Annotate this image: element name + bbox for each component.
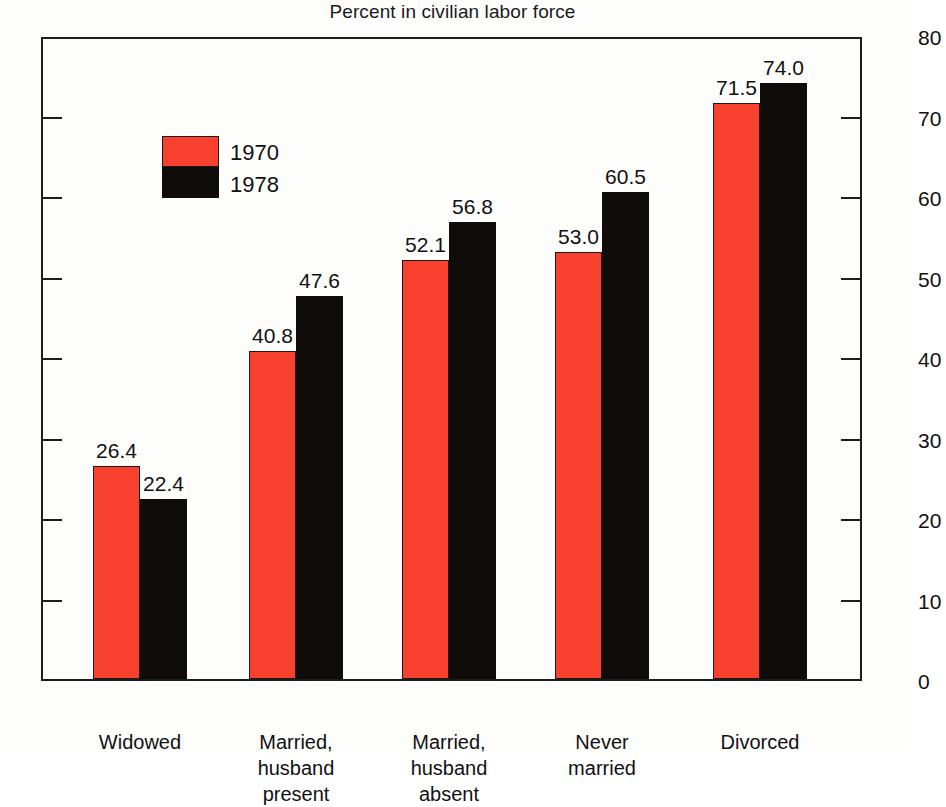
bar-1978-4 [602, 192, 649, 679]
y-tick-left-60 [43, 197, 62, 199]
bar-1970-4 [555, 252, 602, 679]
legend-label-1978: 1978 [230, 174, 279, 196]
y-axis-label-right-60: 60 [918, 188, 946, 209]
value-label-1970-4: 53.0 [534, 226, 624, 247]
y-tick-right-20 [841, 519, 860, 521]
y-axis-label-right-80: 80 [918, 27, 946, 48]
legend-label-1970: 1970 [230, 142, 279, 164]
value-label-1970-5: 71.5 [692, 77, 782, 98]
bar-1978-3 [449, 222, 496, 679]
value-label-1978-2: 47.6 [275, 270, 365, 291]
value-label-1978-4: 60.5 [581, 166, 671, 187]
y-tick-left-30 [43, 439, 62, 441]
y-axis-label-right-70: 70 [918, 108, 946, 129]
x-axis-line [41, 679, 862, 681]
bar-1978-5 [760, 83, 807, 679]
value-label-1970-2: 40.8 [228, 325, 318, 346]
bar-1978-1 [140, 499, 187, 679]
y-tick-right-60 [841, 197, 860, 199]
y-tick-right-50 [841, 278, 860, 280]
y-tick-left-40 [43, 358, 62, 360]
value-label-1970-3: 52.1 [381, 234, 471, 255]
category-label-line: married [502, 755, 702, 781]
plot-area: 0010102020303040405050606070708080 26.42… [41, 37, 862, 681]
category-label-line: Divorced [660, 729, 860, 755]
plot-top-border [41, 37, 862, 39]
category-label-5: Divorced [660, 729, 860, 755]
chart-title: Percent in civilian labor force [0, 1, 905, 23]
bar-1978-2 [296, 296, 343, 679]
y-axis-label-right-0: 0 [918, 671, 946, 692]
y-tick-left-20 [43, 519, 62, 521]
legend-swatch-1978 [162, 167, 219, 198]
y-axis-label-right-10: 10 [918, 591, 946, 612]
y-axis-label-right-20: 20 [918, 510, 946, 531]
y-axis-right-line [860, 37, 862, 681]
value-label-1970-1: 26.4 [72, 440, 162, 461]
y-axis-label-right-40: 40 [918, 349, 946, 370]
y-tick-left-70 [43, 117, 62, 119]
y-tick-left-50 [43, 278, 62, 280]
bar-1970-3 [402, 260, 449, 679]
y-axis-label-right-50: 50 [918, 269, 946, 290]
bar-1970-2 [249, 351, 296, 679]
bar-1970-5 [713, 103, 760, 679]
legend-swatch-1970 [162, 136, 219, 167]
y-tick-right-30 [841, 439, 860, 441]
y-tick-right-10 [841, 600, 860, 602]
y-tick-right-70 [841, 117, 860, 119]
bar-1970-1 [93, 466, 140, 679]
value-label-1978-3: 56.8 [428, 196, 518, 217]
y-tick-left-10 [43, 600, 62, 602]
y-tick-right-40 [841, 358, 860, 360]
value-label-1978-5: 74.0 [739, 57, 829, 78]
category-label-line: absent [349, 781, 549, 807]
value-label-1978-1: 22.4 [119, 473, 209, 494]
y-axis-label-right-30: 30 [918, 430, 946, 451]
